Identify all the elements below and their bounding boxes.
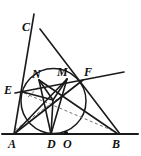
vertex-label-B: B: [112, 138, 120, 150]
vertex-label-C: C: [22, 21, 30, 33]
vertex-label-O: O: [63, 138, 72, 150]
vertex-label-N: N: [32, 68, 41, 80]
vertex-label-A: A: [8, 138, 16, 150]
vertex-label-D: D: [47, 138, 56, 150]
vertex-label-F: F: [84, 66, 92, 78]
dashed-E-to-B: [24, 93, 116, 132]
vertex-label-M: M: [57, 66, 68, 78]
vertex-label-E: E: [4, 84, 12, 96]
geometry-figure: C F E N M A D O B: [0, 0, 141, 156]
point-O-dot: [64, 131, 68, 135]
